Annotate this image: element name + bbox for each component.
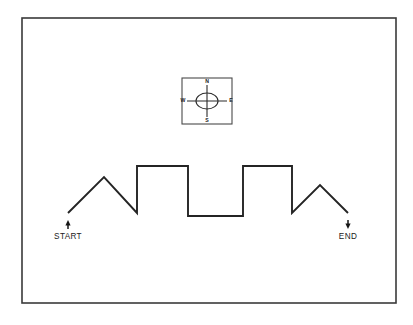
- diagram-border-frame: [22, 18, 396, 303]
- compass-west-label: W: [181, 97, 186, 103]
- compass-east-label: E: [229, 97, 233, 103]
- compass-rose: N E S W: [181, 78, 234, 124]
- compass-south-label: S: [205, 117, 209, 123]
- route-map-diagram: N E S W START END: [0, 0, 413, 325]
- end-label: END: [339, 232, 357, 241]
- start-label: START: [54, 232, 82, 241]
- figure-root: N E S W START END: [0, 0, 413, 325]
- compass-north-label: N: [205, 78, 209, 84]
